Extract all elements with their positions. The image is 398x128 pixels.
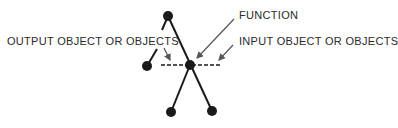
node-bottom-right: [207, 106, 217, 116]
edge-center-to-bottom-left: [171, 65, 190, 112]
function-arrow-icon: [197, 19, 234, 58]
input-arrow-icon: [219, 45, 233, 60]
output-object-label: OUTPUT OBJECT OR OBJECTS: [7, 36, 179, 47]
node-function-center: [185, 60, 195, 70]
node-top: [163, 11, 173, 21]
node-left: [142, 61, 152, 71]
input-object-label: INPUT OBJECT OR OBJECTS: [239, 36, 398, 47]
output-arrow-icon: [164, 48, 170, 60]
node-bottom-left: [166, 107, 176, 117]
function-label: FUNCTION: [239, 10, 298, 21]
